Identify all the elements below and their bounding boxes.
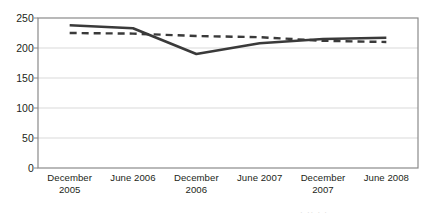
x-tick-december-2005: December 2005	[38, 172, 101, 202]
x-tick-june-2007: June 2007	[228, 172, 291, 202]
screenshot-root: 250 200 150 100 50 0	[0, 0, 432, 220]
x-axis-tick-labels: December 2005 June 2006 December 2006 Ju…	[38, 172, 418, 202]
x-tick-december-2006: December 2006	[165, 172, 228, 202]
line-chart-figure: 250 200 150 100 50 0	[0, 0, 432, 220]
x-tick-june-2008: June 2008	[355, 172, 418, 202]
x-tick-december-2007: December 2007	[291, 172, 354, 202]
cropped-footer-text: · ·· · ·	[300, 208, 432, 220]
x-tick-june-2006: June 2006	[101, 172, 164, 202]
